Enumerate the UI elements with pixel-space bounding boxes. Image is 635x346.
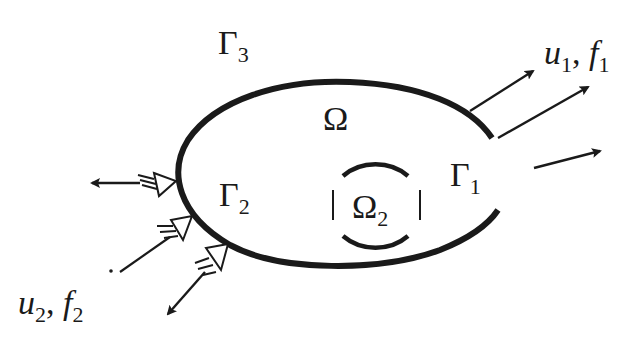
u-symbol: u — [544, 34, 561, 71]
subscript: 2 — [35, 302, 46, 327]
diagram-drawing — [0, 0, 635, 346]
gamma-symbol: Γ — [450, 156, 470, 193]
label-omega: Ω — [323, 102, 348, 136]
subscript: 3 — [238, 42, 249, 67]
subscript: 2 — [239, 194, 250, 219]
label-omega2: Ω2 — [352, 190, 388, 224]
label-gamma3: Γ3 — [218, 26, 249, 60]
separator: , — [572, 34, 589, 71]
subscript: 2 — [72, 302, 83, 327]
gamma-symbol: Γ — [218, 24, 238, 61]
separator: , — [46, 284, 63, 321]
subscript: 2 — [377, 206, 388, 231]
label-u1-f1: u1, f1 — [544, 36, 609, 70]
subscript: 1 — [470, 174, 481, 199]
label-gamma1: Γ1 — [450, 158, 481, 192]
u-symbol: u — [18, 284, 35, 321]
subscript: 1 — [561, 52, 572, 77]
label-gamma2: Γ2 — [219, 178, 250, 212]
omega-symbol: Ω — [352, 188, 377, 225]
subscript: 1 — [598, 52, 609, 77]
diagram-canvas: Γ3 Ω Γ1 Γ2 Ω2 u1, f1 u2, f2 — [0, 0, 635, 346]
arrows-u2-f2 — [92, 173, 228, 314]
label-u2-f2: u2, f2 — [18, 286, 83, 320]
omega-symbol: Ω — [323, 100, 348, 137]
free-arrow — [534, 151, 600, 168]
gamma-symbol: Γ — [219, 176, 239, 213]
